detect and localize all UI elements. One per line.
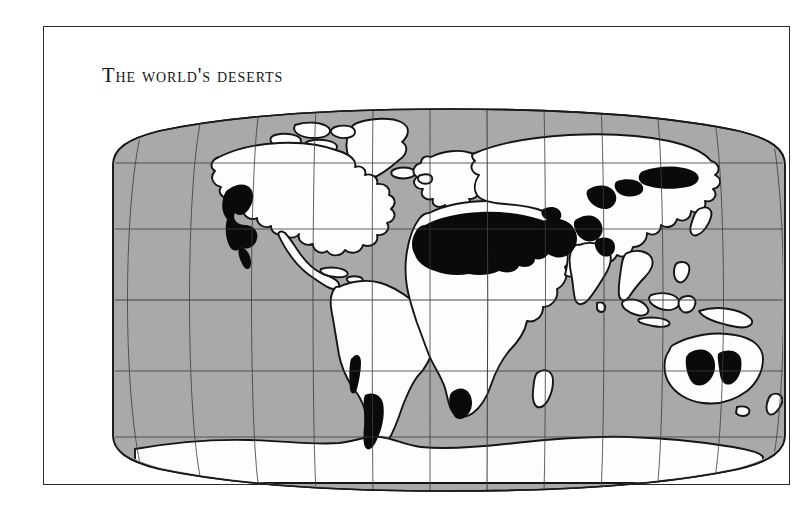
land-iceland bbox=[391, 168, 415, 179]
land-tasmania bbox=[736, 406, 749, 416]
desert-gobi bbox=[639, 167, 699, 189]
land-arctic-island-a bbox=[294, 123, 330, 138]
figure-frame: The world's deserts bbox=[43, 26, 790, 485]
world-map bbox=[99, 105, 799, 495]
page-title: The world's deserts bbox=[102, 60, 702, 90]
figure-root: The world's deserts bbox=[0, 0, 810, 508]
land-sulawesi bbox=[679, 296, 696, 312]
land-arctic-island-b bbox=[331, 126, 355, 138]
map-canvas bbox=[99, 105, 799, 495]
